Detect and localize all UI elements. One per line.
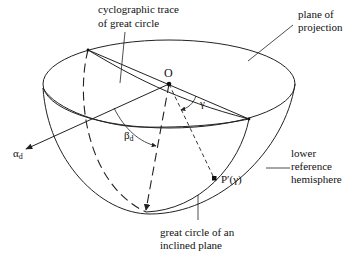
alpha-d-label: αd (13, 147, 23, 161)
trace-label-line1: cyclographic trace (98, 3, 179, 15)
trace-end-point (248, 118, 251, 121)
great-circle-label-line1: great circle of an (160, 226, 235, 238)
great-circle-label-line2: inclined plane (160, 239, 222, 251)
p-gamma-point (212, 176, 217, 181)
hemisphere-outline (43, 84, 295, 214)
gamma-label: γ (199, 97, 205, 109)
origin-label: O (164, 66, 173, 80)
stereographic-hemisphere-diagram: cyclographic trace of great circle plane… (0, 0, 355, 259)
hemisphere-label-line2: reference (291, 160, 332, 172)
origin-point (167, 82, 172, 87)
great-circle-solid-arc (146, 119, 249, 212)
hemisphere-label-line3: hemisphere (291, 173, 342, 185)
p-gamma-label: P′(γ) (221, 173, 242, 186)
trace-start-point (87, 49, 90, 52)
trace-leader (120, 32, 125, 83)
hemisphere-label-line1: lower (291, 147, 316, 159)
dip-line-dashed (146, 84, 169, 210)
beta-d-label: βd (124, 129, 134, 143)
plane-label-line2: projection (298, 21, 343, 33)
trace-label-line2: of great circle (98, 17, 159, 29)
great-circle-inclined-plane (43, 88, 249, 127)
great-circle-dashed-arc (83, 50, 146, 212)
pitch-line-dashed (169, 84, 214, 178)
plane-leader (248, 25, 293, 61)
plane-label-line1: plane of (298, 8, 334, 20)
